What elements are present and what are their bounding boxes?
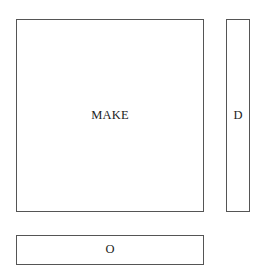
o-label: O <box>105 242 114 257</box>
d-box: D <box>226 19 250 212</box>
make-label: MAKE <box>91 108 129 123</box>
make-box: MAKE <box>16 19 204 212</box>
o-box: O <box>16 235 204 265</box>
d-label: D <box>233 108 242 123</box>
